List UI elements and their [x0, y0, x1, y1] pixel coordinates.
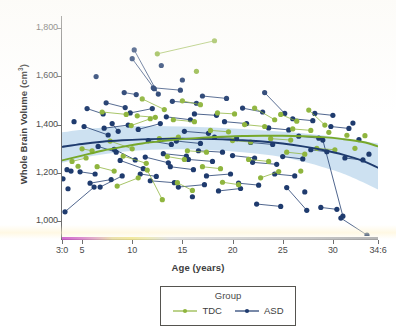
data-point	[200, 164, 205, 169]
data-point	[194, 69, 199, 74]
legend-swatch-tdc	[172, 306, 198, 316]
trajectory-line	[315, 113, 333, 115]
trajectory-line	[131, 119, 150, 126]
data-point	[276, 169, 281, 174]
data-point	[326, 130, 331, 135]
data-point	[124, 112, 129, 117]
data-point	[246, 157, 251, 162]
data-point	[200, 93, 205, 98]
legend-item-asd[interactable]: ASD	[234, 305, 284, 316]
data-point	[294, 119, 299, 124]
data-point	[154, 174, 159, 179]
y-axis-ticks: 1,0001,2001,4001,6001,800	[12, 0, 58, 240]
data-point	[224, 96, 229, 101]
x-tick-label: 25	[278, 245, 288, 255]
data-point	[266, 159, 271, 164]
data-point	[236, 182, 241, 187]
trajectory-line	[194, 114, 216, 115]
data-point	[132, 47, 137, 52]
data-point	[95, 164, 100, 169]
data-point	[79, 146, 84, 151]
data-point	[176, 184, 181, 189]
trajectory-line	[145, 157, 168, 163]
x-tick-label: 15	[177, 245, 187, 255]
x-tick-mark	[333, 240, 334, 244]
data-point	[153, 115, 158, 120]
data-point	[306, 107, 311, 112]
trajectory-line	[188, 159, 212, 161]
data-point	[106, 132, 111, 137]
x-tick-label: 30	[328, 245, 338, 255]
legend-item-tdc[interactable]: TDC	[172, 305, 222, 316]
x-tick-mark	[132, 240, 133, 244]
data-point	[298, 168, 303, 173]
trajectory-line	[269, 128, 289, 130]
data-point	[220, 150, 225, 155]
data-point	[122, 90, 127, 95]
legend-label: ASD	[264, 305, 284, 316]
data-point	[190, 188, 195, 193]
data-point	[198, 141, 203, 146]
data-point	[123, 105, 128, 110]
data-point	[230, 153, 235, 158]
data-point	[134, 92, 139, 97]
data-point	[112, 168, 117, 173]
data-point	[135, 113, 140, 118]
data-point	[169, 142, 174, 147]
data-point	[116, 129, 121, 134]
x-tick-label: 34:6	[369, 245, 386, 255]
trajectory-line	[117, 178, 138, 186]
data-point	[204, 150, 209, 155]
data-point	[94, 74, 99, 79]
legend-title: Group	[161, 290, 295, 301]
data-point	[308, 128, 313, 133]
legend-items: TDCASD	[161, 305, 295, 316]
data-point	[196, 148, 201, 153]
data-point	[215, 110, 220, 115]
data-point	[242, 122, 247, 127]
data-point	[110, 121, 115, 126]
data-point	[175, 180, 180, 185]
x-tick-label: 20	[228, 245, 238, 255]
data-point	[220, 180, 225, 185]
data-point	[254, 201, 259, 206]
scatter-canvas	[62, 18, 378, 236]
data-point	[81, 124, 86, 129]
data-point	[98, 184, 103, 189]
trajectory-line	[170, 167, 193, 170]
data-point	[71, 119, 76, 124]
data-point	[256, 183, 261, 188]
x-tick-label: 10	[127, 245, 137, 255]
legend-label: TDC	[202, 305, 222, 316]
trajectory-line	[153, 88, 180, 90]
y-tick-mark	[57, 125, 61, 126]
data-point	[159, 63, 164, 68]
data-point	[272, 117, 277, 122]
data-point	[218, 166, 223, 171]
legend-swatch-asd	[234, 306, 260, 316]
data-point	[168, 164, 173, 169]
data-point	[262, 124, 267, 129]
data-point	[208, 128, 213, 133]
whole-brain-volume-figure: Whole Brain Volume (cm3) 1,0001,2001,400…	[0, 0, 396, 329]
series-tdc	[69, 38, 367, 202]
plot-area	[62, 18, 378, 236]
data-point	[318, 205, 323, 210]
trajectory-line	[275, 174, 295, 176]
trajectory-line	[265, 93, 285, 114]
data-point	[210, 159, 215, 164]
data-point	[145, 168, 150, 173]
data-point	[84, 106, 89, 111]
data-point	[292, 173, 297, 178]
data-point	[262, 90, 267, 95]
data-point	[69, 159, 74, 164]
data-point	[191, 167, 196, 172]
data-point	[278, 204, 283, 209]
data-point	[93, 171, 98, 176]
legend: Group TDCASD	[160, 286, 296, 326]
data-point	[284, 150, 289, 155]
data-point	[280, 154, 285, 159]
data-point	[180, 77, 185, 82]
trajectory-line	[130, 109, 152, 113]
data-point	[344, 133, 349, 138]
